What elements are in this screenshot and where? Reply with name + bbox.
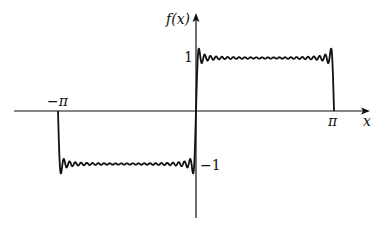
plot: f(x) x −π π 1 −1 bbox=[0, 0, 384, 231]
tick-label-one: 1 bbox=[184, 49, 193, 65]
x-axis-label: x bbox=[363, 113, 371, 129]
tick-label-pi: π bbox=[327, 113, 338, 129]
tick-label-neg-pi: −π bbox=[47, 93, 69, 109]
tick-label-neg-one: −1 bbox=[200, 157, 221, 173]
y-axis-label: f(x) bbox=[165, 11, 190, 27]
